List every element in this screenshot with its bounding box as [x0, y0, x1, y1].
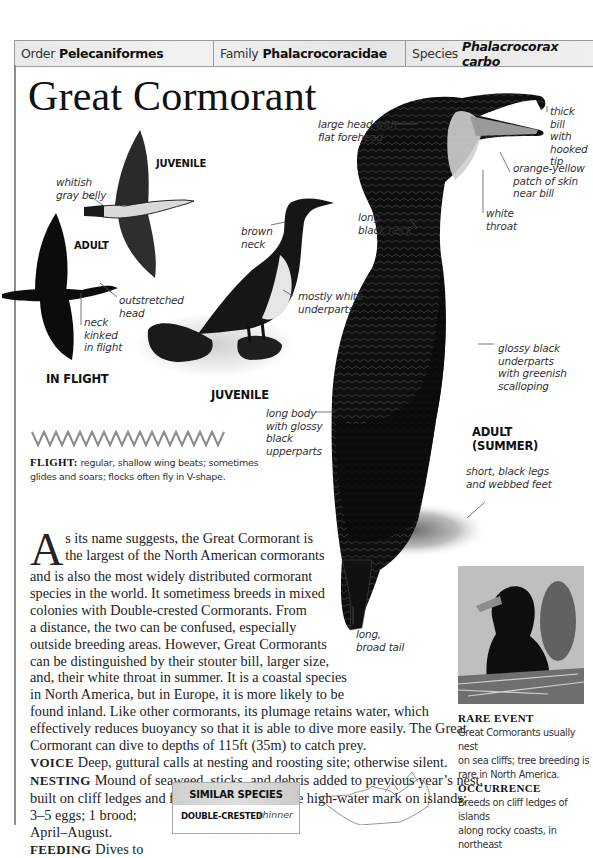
label-white-throat: whitethroat [486, 207, 517, 232]
label-whitish-gray-belly: whitishgray belly [56, 176, 106, 201]
juvenile-flight-bird [84, 130, 194, 278]
rare-event-line: Great Cormorants usually nest [458, 727, 575, 752]
body-line: effectively reduces buoyancy so that it … [30, 720, 460, 737]
label-large-head: large head withflat forehead [318, 118, 397, 143]
label-brown-neck: brownneck [241, 225, 273, 250]
occurrence-line: Breeds on cliff ledges of islands [458, 797, 567, 822]
body-line: found inland. Like other cormorants, its… [30, 703, 460, 720]
body-line: colonies with Double-crested Cormorants.… [30, 602, 460, 619]
body-line: can be distinguished by their stouter bi… [30, 653, 460, 670]
rare-event-line: rare in North America. [458, 769, 559, 780]
flight-caption: FLIGHT: regular, shallow wing beats; som… [30, 455, 280, 484]
body-line: in North America, but in Europe, it is m… [30, 686, 460, 703]
tag-juvenile-standing: JUVENILE [211, 388, 269, 402]
voice-text: Deep, guttural calls at nesting and roos… [78, 754, 448, 770]
drop-cap: A [30, 532, 63, 568]
tag-summer: (SUMMER) [472, 439, 538, 453]
label-short-black-legs: short, black legsand webbed feet [466, 465, 552, 490]
label-long-body: long bodywith glossyblackupperparts [266, 407, 323, 457]
label-thick-bill: thick billwithhookedtip [550, 105, 592, 168]
voice-line: VOICEDeep, guttural calls at nesting and… [30, 754, 460, 772]
tag-adult: ADULT [472, 425, 512, 439]
body-line: outside breeding areas. However, Great C… [30, 636, 460, 653]
body-line: s its name suggests, the Great Cormorant… [30, 530, 460, 547]
rare-event-line: on sea cliffs; tree breeding is [458, 755, 589, 766]
label-outstretched-head: outstretchedhead [119, 294, 184, 319]
body-line: Cormorant can dive to depths of 115ft (3… [30, 737, 460, 754]
tag-juvenile-flight: JUVENILE [156, 158, 206, 169]
feeding-label: FEEDING [30, 842, 91, 857]
body-line: species in the world. It sometimess bree… [30, 585, 460, 602]
occurrence-heading: OCCURRENCE [458, 782, 541, 794]
label-long-black-neck: long,black neck [358, 211, 412, 236]
label-neck-kinked: neckkinkedin flight [84, 316, 122, 354]
feeding-text: Dives to [95, 841, 143, 857]
occurrence-text: Breeds on cliff ledges of islands along … [458, 796, 592, 852]
tag-in-flight: IN FLIGHT [46, 372, 108, 386]
body-line: the largest of the North American cormor… [30, 547, 460, 564]
nesting-label: NESTING [30, 773, 91, 788]
label-orange-yellow-patch: orange-yellowpatch of skinnear bill [513, 162, 585, 200]
body-line: and is also the most widely distributed … [30, 568, 460, 585]
juvenile-standing-bird [135, 198, 334, 377]
body-line: a distance, the two can be confused, esp… [30, 619, 460, 636]
tag-adult-flight: ADULT [74, 240, 109, 251]
similar-species-note: thinner [259, 809, 293, 820]
rare-event-photo [458, 566, 584, 704]
label-glossy-black-underparts: glossy blackunderpartswith greenishscall… [498, 342, 567, 392]
similar-species-box: SIMILAR SPECIES DOUBLE-CRESTED thinner [172, 782, 300, 834]
feeding-line: FEEDINGDives to [30, 841, 460, 858]
rare-event-heading: RARE EVENT [458, 712, 534, 724]
body-line: and, their white throat in summer. It is… [30, 669, 460, 686]
label-mostly-white-underparts: mostly whiteunderparts [298, 290, 363, 315]
flight-pattern-zigzag [32, 432, 224, 445]
voice-label: VOICE [30, 755, 74, 770]
similar-species-heading: SIMILAR SPECIES [173, 783, 299, 805]
occurrence-line: along rocky coasts, in northeast [458, 825, 557, 850]
nesting-cormorant-photo [458, 566, 584, 704]
rare-event-text: Great Cormorants usually nest on sea cli… [458, 726, 592, 782]
flight-label: FLIGHT: [30, 456, 78, 468]
